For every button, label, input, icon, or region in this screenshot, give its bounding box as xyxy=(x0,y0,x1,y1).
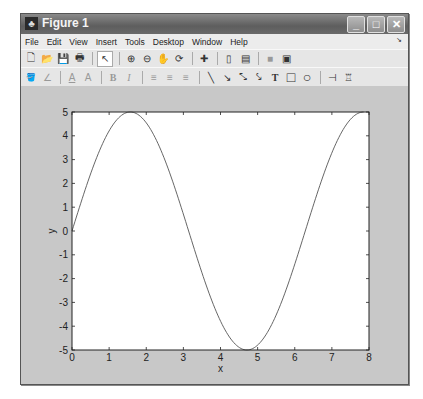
y-tick-label: 5 xyxy=(62,107,68,118)
menu-edit[interactable]: Edit xyxy=(47,37,62,47)
y-tick-label: -5 xyxy=(59,345,68,356)
toolbar-separator xyxy=(60,71,61,84)
figure-canvas[interactable]: 012345678-5-4-3-2-1012345xy xyxy=(21,86,408,384)
y-axis-label: y xyxy=(46,229,57,234)
rotate-3d-icon[interactable]: ⟳ xyxy=(172,52,186,66)
text-box-icon[interactable]: T xyxy=(268,70,282,84)
menu-tools[interactable]: Tools xyxy=(125,37,145,47)
bold-icon[interactable]: B xyxy=(106,70,120,84)
text-arrow-icon[interactable]: ⤥ xyxy=(252,70,266,84)
x-tick-label: 6 xyxy=(292,352,298,363)
toolbar-separator xyxy=(320,71,321,84)
menu-window[interactable]: Window xyxy=(192,37,222,47)
italic-icon[interactable]: I xyxy=(122,70,136,84)
pan-hand-icon[interactable]: ✋ xyxy=(156,52,170,66)
hide-plot-tools-icon[interactable]: ■ xyxy=(263,52,277,66)
x-tick-label: 2 xyxy=(143,352,149,363)
minimize-button[interactable]: _ xyxy=(347,16,365,33)
figure-toolbar: 🗋 📂 💾 🖶 ↖ ⊕ ⊖ ✋ ⟳ ✚ ▯ ▤ ■ ▣ xyxy=(21,49,408,68)
window-title: Figure 1 xyxy=(42,16,89,30)
x-axis-label: x xyxy=(218,363,223,374)
menu-desktop[interactable]: Desktop xyxy=(153,37,184,47)
font-icon[interactable]: A xyxy=(81,70,95,84)
maximize-button[interactable]: □ xyxy=(367,16,385,33)
pin-icon[interactable]: ⊣ xyxy=(325,70,339,84)
colorbar-icon[interactable]: ▯ xyxy=(222,52,236,66)
toolbar-separator xyxy=(142,71,143,84)
line-icon[interactable]: ╲ xyxy=(204,70,218,84)
data-cursor-icon[interactable]: ✚ xyxy=(197,52,211,66)
y-tick-label: 1 xyxy=(62,202,68,213)
save-icon[interactable]: 💾 xyxy=(56,52,70,66)
menu-view[interactable]: View xyxy=(69,37,87,47)
x-tick-label: 3 xyxy=(181,352,187,363)
edge-color-icon[interactable]: ∠ xyxy=(40,70,54,84)
arrow-icon[interactable]: ↘ xyxy=(220,70,234,84)
x-tick-label: 0 xyxy=(69,352,75,363)
toolbar-separator xyxy=(192,52,193,65)
dock-figure-icon[interactable]: ↘ xyxy=(396,36,402,44)
x-tick-label: 1 xyxy=(106,352,112,363)
y-tick-label: 2 xyxy=(62,178,68,189)
new-figure-icon[interactable]: 🗋 xyxy=(24,52,38,66)
axes[interactable]: 012345678-5-4-3-2-1012345xy xyxy=(21,86,408,384)
show-plot-tools-icon[interactable]: ▣ xyxy=(279,52,293,66)
menu-bar: File Edit View Insert Tools Desktop Wind… xyxy=(21,34,408,49)
toolbar-separator xyxy=(92,52,93,65)
align-left-icon[interactable]: ≡ xyxy=(147,70,161,84)
text-color-icon[interactable]: A xyxy=(65,70,79,84)
open-file-icon[interactable]: 📂 xyxy=(40,52,54,66)
menu-insert[interactable]: Insert xyxy=(96,37,117,47)
align-right-icon[interactable]: ≡ xyxy=(179,70,193,84)
y-tick-label: 0 xyxy=(62,226,68,237)
print-icon[interactable]: 🖶 xyxy=(72,52,86,66)
y-tick-label: 4 xyxy=(62,130,68,141)
rectangle-icon[interactable]: □ xyxy=(284,70,298,84)
menu-file[interactable]: File xyxy=(25,37,39,47)
matlab-icon: ♣ xyxy=(25,17,38,30)
x-tick-label: 7 xyxy=(329,352,335,363)
zoom-in-icon[interactable]: ⊕ xyxy=(124,52,138,66)
y-tick-label: -2 xyxy=(59,273,68,284)
align-center-icon[interactable]: ≡ xyxy=(163,70,177,84)
plot-edit-toolbar: 🪣 ∠ A A B I ≡ ≡ ≡ ╲ ↘ ⤡ ⤥ T □ ○ ⊣ ♖ xyxy=(21,67,408,87)
close-button[interactable]: ✕ xyxy=(387,16,405,33)
zoom-out-icon[interactable]: ⊖ xyxy=(140,52,154,66)
y-tick-label: -4 xyxy=(59,321,68,332)
toolbar-separator xyxy=(217,52,218,65)
x-tick-label: 8 xyxy=(366,352,372,363)
toolbar-separator xyxy=(101,71,102,84)
plot-area[interactable] xyxy=(72,112,369,350)
toolbar-separator xyxy=(199,71,200,84)
double-arrow-icon[interactable]: ⤡ xyxy=(236,70,250,84)
x-tick-label: 4 xyxy=(218,352,224,363)
figure-window: ♣ Figure 1 _ □ ✕ File Edit View Insert T… xyxy=(20,13,409,385)
face-color-icon[interactable]: 🪣 xyxy=(24,70,38,84)
menu-help[interactable]: Help xyxy=(230,37,247,47)
align-distribute-icon[interactable]: ♖ xyxy=(341,70,355,84)
y-tick-label: 3 xyxy=(62,154,68,165)
ellipse-icon[interactable]: ○ xyxy=(300,70,314,84)
y-tick-label: -3 xyxy=(59,297,68,308)
legend-icon[interactable]: ▤ xyxy=(238,52,252,66)
toolbar-separator xyxy=(119,52,120,65)
y-tick-label: -1 xyxy=(59,249,68,260)
x-tick-label: 5 xyxy=(255,352,261,363)
toolbar-separator xyxy=(258,52,259,65)
edit-plot-arrow-icon[interactable]: ↖ xyxy=(97,51,113,67)
title-bar[interactable]: ♣ Figure 1 _ □ ✕ xyxy=(21,14,408,34)
